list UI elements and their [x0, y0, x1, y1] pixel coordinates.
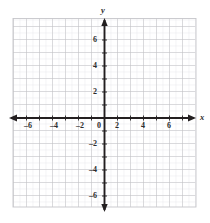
y-tick-label-6: 6 [93, 36, 97, 44]
x-tick-label-neg6: –6 [24, 122, 32, 130]
x-tick-label-2: 2 [115, 122, 119, 130]
y-axis-label: y [101, 6, 105, 15]
x-tick-label-neg4: –4 [50, 122, 58, 130]
grid-and-axes [0, 0, 210, 223]
y-tick-label-4: 4 [93, 62, 97, 70]
x-tick-label-zero: 0 [97, 122, 101, 130]
x-tick-label-6: 6 [167, 122, 171, 130]
y-tick-label-neg4: –4 [89, 166, 97, 174]
x-axis-label: x [200, 113, 204, 122]
y-tick-label-2: 2 [93, 88, 97, 96]
arrow-down-icon [101, 204, 107, 212]
y-tick-label-neg6: –6 [89, 192, 97, 200]
y-tick-label-neg2: –2 [89, 140, 97, 148]
coordinate-plane: –6 –4 –2 0 2 4 6 6 4 2 –2 –4 –6 y x [0, 0, 210, 223]
x-tick-label-neg2: –2 [76, 122, 84, 130]
x-tick-label-4: 4 [141, 122, 145, 130]
